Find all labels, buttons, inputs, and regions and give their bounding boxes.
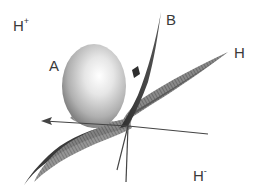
diagram-canvas — [0, 0, 258, 193]
axis-right — [128, 126, 208, 134]
label-h-minus-base: H — [193, 167, 204, 184]
label-a-text: A — [49, 57, 59, 74]
label-a: A — [49, 58, 59, 73]
label-b: B — [166, 12, 176, 27]
label-h-plus: H+ — [13, 18, 29, 33]
label-h-plus-sup: + — [24, 16, 29, 26]
blade-notch — [132, 66, 140, 78]
label-h-text: H — [234, 44, 245, 61]
sphere-a — [62, 44, 126, 128]
label-b-text: B — [166, 11, 176, 28]
label-h-minus: H- — [193, 168, 207, 183]
label-h-minus-sup: - — [204, 166, 207, 176]
label-h-plus-base: H — [13, 17, 24, 34]
label-h: H — [234, 45, 245, 60]
